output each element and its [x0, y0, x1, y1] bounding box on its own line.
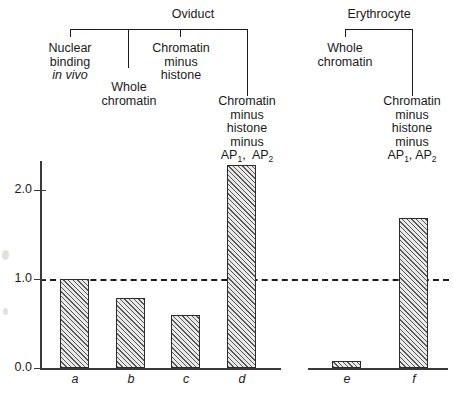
- bar-c[interactable]: [171, 315, 200, 368]
- bar-e[interactable]: [332, 361, 361, 368]
- x-label-e: e: [327, 372, 367, 386]
- bar-d[interactable]: [227, 165, 256, 368]
- y-tick-1: [34, 279, 46, 280]
- scan-artifact-left: [2, 250, 9, 260]
- y-tick-label-0: 0.0: [0, 360, 32, 374]
- x-label-c: c: [166, 372, 206, 386]
- x-axis-erythrocyte: [308, 368, 448, 370]
- y-tick-label-2: 2.0: [0, 182, 32, 196]
- plot-area: 2.0 1.0 0.0 a b c d e f: [0, 0, 453, 394]
- y-axis: [40, 161, 42, 369]
- x-label-b: b: [111, 372, 151, 386]
- figure-bar-chart: Oviduct Erythrocyte Nuclear binding in v…: [0, 0, 453, 394]
- x-axis-oviduct: [40, 368, 281, 370]
- y-tick-2: [34, 190, 46, 191]
- bar-b[interactable]: [116, 298, 145, 368]
- x-label-d: d: [222, 372, 262, 386]
- scan-artifact-left-2: [3, 308, 8, 315]
- bar-f[interactable]: [399, 218, 428, 368]
- bar-a[interactable]: [60, 279, 89, 368]
- y-tick-label-1: 1.0: [0, 271, 32, 285]
- x-label-a: a: [55, 372, 95, 386]
- x-label-f: f: [394, 372, 434, 386]
